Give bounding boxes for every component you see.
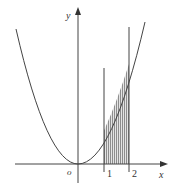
y-axis-label: y [65, 10, 71, 21]
x-axis-label: x [158, 169, 164, 180]
tick-label-2: 2 [132, 168, 137, 179]
tick-label-1: 1 [107, 168, 112, 179]
x-axis-arrow-icon [160, 161, 168, 167]
parabola-area-diagram: y x o 1 2 [0, 0, 180, 192]
shaded-area [104, 60, 129, 164]
y-axis-arrow-icon [75, 7, 81, 15]
origin-label: o [67, 167, 72, 177]
